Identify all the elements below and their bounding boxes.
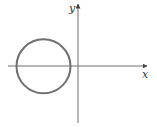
x-axis-label: x	[142, 68, 149, 81]
coordinate-diagram: y x	[0, 0, 157, 127]
y-axis-label: y	[68, 2, 76, 15]
